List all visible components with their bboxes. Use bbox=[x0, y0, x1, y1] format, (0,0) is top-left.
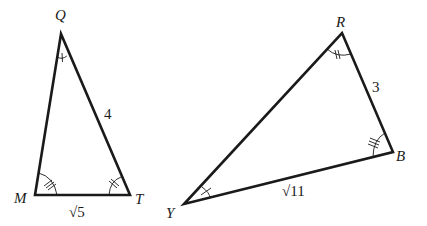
side-label-qt: 4 bbox=[104, 106, 112, 122]
triangle-qmt: Q M T 4 √5 bbox=[13, 7, 145, 220]
side-label-mt: √5 bbox=[69, 204, 85, 220]
angle-m-arc bbox=[39, 173, 57, 195]
angle-y-arc bbox=[202, 187, 210, 198]
angle-y-tick bbox=[201, 188, 211, 195]
triangle-rby-edges bbox=[184, 33, 393, 204]
triangle-qmt-edges bbox=[35, 34, 130, 195]
vertex-label-q: Q bbox=[55, 7, 66, 23]
angle-q-tick bbox=[62, 53, 63, 62]
angle-b-tick-3 bbox=[368, 144, 378, 148]
vertex-label-t: T bbox=[135, 191, 145, 207]
vertex-label-y: Y bbox=[166, 205, 176, 221]
triangle-rby: R B Y 3 √11 bbox=[166, 14, 405, 221]
vertex-label-r: R bbox=[335, 14, 345, 30]
angle-m-tick-1 bbox=[44, 180, 52, 186]
similar-triangles-figure: Q M T 4 √5 R B Y 3 √11 bbox=[0, 0, 427, 226]
vertex-label-b: B bbox=[396, 148, 405, 164]
angle-m-tick-2 bbox=[46, 182, 54, 188]
side-label-rb: 3 bbox=[372, 79, 380, 95]
side-label-yb: √11 bbox=[282, 183, 305, 199]
vertex-label-m: M bbox=[13, 190, 28, 206]
angle-b-tick-2 bbox=[369, 141, 379, 145]
